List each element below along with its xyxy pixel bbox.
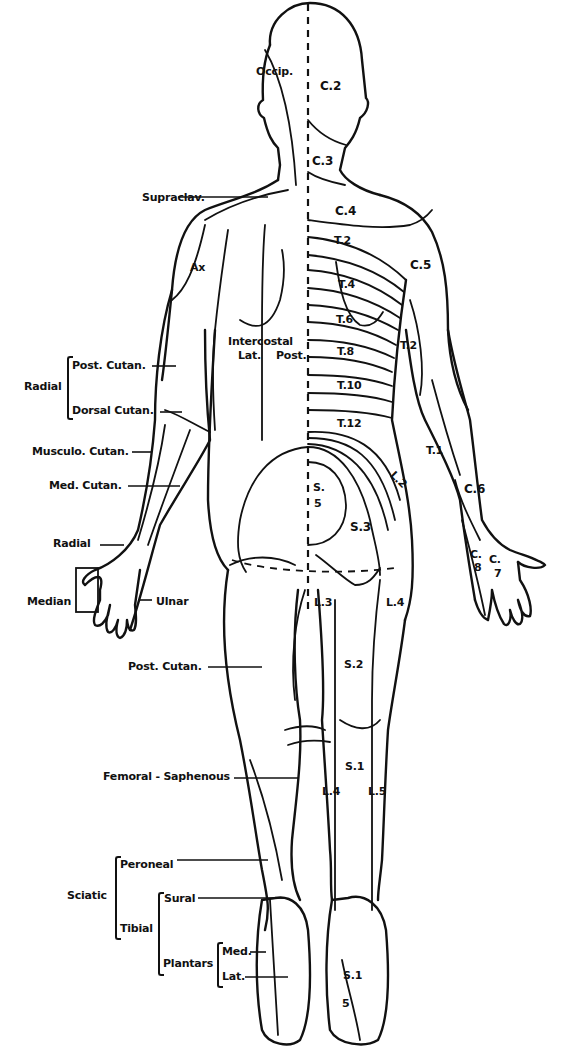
l4-thigh-label: L.4: [386, 597, 404, 609]
knee-crease-1: [285, 726, 325, 730]
ax-label: Ax: [190, 262, 205, 274]
s45-top-label: S.: [313, 482, 325, 494]
c2-label: C.2: [320, 80, 341, 92]
right-leg-inner: [318, 590, 332, 900]
radial-group-label: Radial: [24, 381, 62, 393]
t6-label: T.6: [336, 314, 353, 326]
s45-bot-label: 5: [314, 498, 321, 510]
t4-label: T.4: [338, 279, 355, 291]
t1-label: T.1: [426, 445, 443, 457]
left-foot: [257, 897, 310, 1044]
t2-back-label: T.2: [334, 235, 351, 247]
s1-foot-label: S.1: [343, 970, 362, 982]
c8-bot-label: 8: [474, 562, 481, 574]
peroneal-label: Peroneal: [120, 859, 173, 871]
gluteal-dashed-line: [232, 560, 395, 572]
t2-arm-label: T.2: [400, 340, 417, 352]
post-cutan-thigh-label: Post. Cutan.: [128, 661, 202, 673]
supraclav-label: Supraclav.: [142, 192, 205, 204]
ulnar-label: Ulnar: [156, 596, 188, 608]
l5-label: L.5: [368, 786, 386, 798]
intercostal-label: Intercostal: [228, 336, 293, 348]
c3-label: C.3: [312, 155, 333, 167]
l4-boundary: [372, 580, 380, 910]
post-cutan-arm-label: Post. Cutan.: [72, 360, 146, 372]
s1-leg-label: S.1: [345, 761, 364, 773]
c5-label: C.5: [410, 259, 431, 271]
l4-leg-label: L.4: [322, 786, 340, 798]
left-arm-outer: [83, 290, 172, 585]
dorsal-cutan-label: Dorsal Cutan.: [72, 405, 154, 417]
t9-band: [308, 357, 392, 372]
sciatic-label: Sciatic: [67, 890, 107, 902]
gluteal-fold-right: [316, 555, 380, 585]
left-leg-inner: [292, 590, 301, 900]
c6-label: C.6: [464, 483, 485, 495]
lat-label: Lat.: [238, 350, 261, 362]
dermatome-diagram: Occip. C.2 C.3 C.4 C.5 T.2 T.4 T.6 T.8 T…: [0, 0, 569, 1053]
right-arm-inner: [406, 330, 475, 600]
trunk-left-side: [208, 330, 228, 570]
right-hand: [475, 562, 531, 625]
occip-label: Occip.: [256, 66, 293, 78]
s5-foot-label: 5: [342, 998, 349, 1010]
s2-label: S.2: [344, 659, 363, 671]
right-arm-outer: [448, 330, 545, 568]
t5-band: [308, 288, 400, 318]
femoral-saphenous-label: Femoral - Saphenous: [103, 771, 230, 783]
med-cutan-label: Med. Cutan.: [49, 480, 122, 492]
t12-label: T.12: [337, 418, 362, 430]
c2-c3-boundary: [308, 120, 346, 145]
c7-bot-label: 7: [494, 568, 501, 580]
radial-hand-label: Radial: [53, 538, 91, 550]
c3-c4-boundary: [308, 172, 345, 185]
left-foot-line: [270, 900, 278, 1035]
s3-label: S.3: [350, 521, 371, 533]
plantar-med-label: Med.: [222, 946, 252, 958]
s3-outer: [308, 447, 380, 575]
t10-label: T.10: [337, 380, 362, 392]
scapular-line-right: [262, 225, 265, 440]
tibial-label: Tibial: [120, 923, 153, 935]
left-arm-inner: [130, 330, 210, 630]
c4-label: C.4: [335, 205, 356, 217]
forearm-line-2: [148, 430, 190, 545]
plantar-lat-label: Lat.: [222, 971, 245, 983]
c8-top-label: C.: [470, 549, 482, 561]
median-label: Median: [27, 596, 71, 608]
musculo-cutan-label: Musculo. Cutan.: [32, 446, 129, 458]
t8-label: T.8: [337, 346, 354, 358]
radial-dorsal-line: [165, 410, 210, 432]
l3-label: L.3: [314, 597, 332, 609]
buttock-left: [238, 447, 308, 572]
left-leg-outer: [224, 570, 268, 930]
t3-band: [308, 255, 404, 292]
post-label: Post.: [276, 350, 307, 362]
sural-label: Sural: [164, 893, 195, 905]
right-leg-outer: [378, 620, 405, 900]
t11-band: [308, 393, 392, 402]
trunk-right-side: [392, 280, 413, 620]
t2-band: [308, 237, 406, 280]
calf-line: [340, 720, 380, 728]
c4-right-boundary: [308, 210, 432, 227]
plantars-label: Plantars: [163, 958, 213, 970]
c7-top-label: C.: [489, 554, 501, 566]
